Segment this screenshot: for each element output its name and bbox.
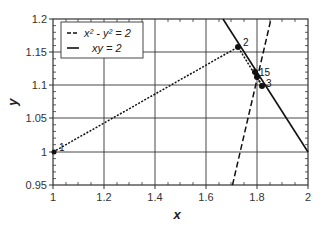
label-point-3: 3 [266,78,272,89]
iterate-markers [52,44,266,155]
svg-text:1.15: 1.15 [26,46,47,58]
y-axis-title: y [5,98,20,107]
x-axis-title: x [172,207,181,222]
svg-text:2: 2 [305,191,311,203]
x-tick-labels: 1 1.2 1.4 1.6 1.8 2 [50,191,311,203]
legend: x² - y² = 2 xy = 2 [61,22,143,58]
svg-text:1.1: 1.1 [32,79,47,91]
svg-text:1.2: 1.2 [32,13,47,25]
svg-text:1.4: 1.4 [147,191,162,203]
svg-text:1.05: 1.05 [26,112,47,124]
series-iterates [53,47,262,152]
point-2 [235,44,241,50]
legend-item-hyperbola: x² - y² = 2 [83,27,131,39]
label-point-2: 2 [243,37,249,48]
svg-text:1: 1 [41,146,47,158]
y-tick-labels: 0.95 1 1.05 1.1 1.15 1.2 [26,13,47,191]
svg-text:1.6: 1.6 [198,191,213,203]
svg-text:1.8: 1.8 [249,191,264,203]
legend-item-xy: xy = 2 [91,42,122,54]
svg-text:1: 1 [50,191,56,203]
point-1 [52,150,57,155]
label-point-15: 15 [259,67,271,78]
point-3 [259,83,265,89]
chart: 1 2 15 3 x² - y² = 2 xy = 2 1 1.2 1.4 1.… [0,0,325,234]
label-point-1: 1 [59,142,65,153]
svg-text:0.95: 0.95 [26,179,47,191]
svg-text:1.2: 1.2 [96,191,111,203]
